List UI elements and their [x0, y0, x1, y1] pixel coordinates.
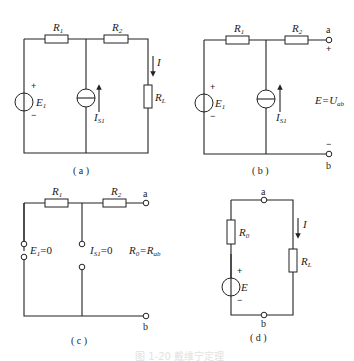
label-rl: RL [154, 91, 166, 105]
label-terminal-b: b [143, 321, 148, 332]
equation-e-uab: E=Uab [314, 94, 345, 108]
circuit-panel-a: R1 R2 + − E1 IS1 RL I ( a ) [15, 21, 166, 177]
label-is1-zero: IS1=0 [89, 244, 113, 258]
panel-label-b: ( b ) [252, 165, 269, 177]
resistor-r1 [45, 35, 68, 43]
terminal-b [143, 313, 149, 319]
resistor-r1 [45, 199, 68, 207]
resistor-rl [289, 249, 297, 272]
label-r1: R1 [52, 21, 63, 35]
panel-label-d: ( d ) [250, 332, 267, 344]
label-e1: E1 [214, 97, 225, 111]
label-r2: R2 [291, 22, 303, 36]
label-e1-zero: E1=0 [29, 244, 52, 258]
label-terminal-b: b [326, 160, 331, 171]
label-terminal-a: a [326, 24, 331, 35]
label-terminal-b: b [261, 318, 266, 329]
resistor-r1 [226, 36, 249, 44]
label-r1: R1 [51, 185, 62, 199]
panel-label-c: ( c ) [71, 335, 87, 347]
terminal-b [261, 312, 267, 318]
minus-sign: − [326, 139, 331, 149]
label-terminal-a: a [261, 186, 266, 197]
label-r1: R1 [233, 22, 244, 36]
figure-caption: 图 1-20 戴维宁定理 [135, 350, 224, 361]
open-terminal [79, 241, 85, 247]
circuit-panel-c: R1 R2 E1=0 IS1=0 R0=Rab a b ( c ) [21, 185, 161, 347]
minus-sign: − [237, 295, 242, 305]
open-terminal [79, 264, 85, 270]
circuit-panel-b: R1 R2 + − E1 IS1 a + − b E=Uab ( b ) [195, 22, 345, 177]
resistor-r2 [104, 35, 128, 43]
open-terminal [21, 241, 27, 247]
label-r0: R0 [238, 226, 250, 240]
terminal-a [326, 37, 332, 43]
plus-sign: + [31, 81, 36, 91]
plus-sign: + [326, 44, 331, 54]
label-r2: R2 [110, 185, 122, 199]
label-terminal-a: a [143, 188, 148, 199]
equation-r0-rab: R0=Rab [128, 244, 161, 258]
terminal-a [143, 200, 149, 206]
resistor-rl [144, 85, 152, 108]
label-e: E [240, 281, 248, 293]
circuit-panel-d: R0 + − E RL I a b ( d ) [222, 186, 312, 344]
resistor-r0 [227, 220, 235, 244]
plus-sign: + [237, 266, 242, 276]
label-is1: IS1 [275, 111, 287, 125]
label-current-i: I [302, 218, 308, 230]
resistor-r2 [103, 199, 126, 207]
terminal-a [261, 197, 267, 203]
minus-sign: − [210, 111, 215, 121]
label-e1: E1 [35, 96, 46, 110]
panel-label-a: ( a ) [73, 165, 89, 177]
plus-sign: + [210, 82, 215, 92]
terminal-b [326, 151, 332, 157]
open-terminal [21, 254, 27, 260]
wire-c [24, 203, 143, 316]
label-rl: RL [300, 255, 312, 269]
minus-sign: − [31, 110, 36, 120]
label-r2: R2 [111, 21, 123, 35]
resistor-r2 [285, 36, 308, 44]
label-current-i: I [156, 56, 162, 68]
label-is1: IS1 [93, 111, 105, 125]
